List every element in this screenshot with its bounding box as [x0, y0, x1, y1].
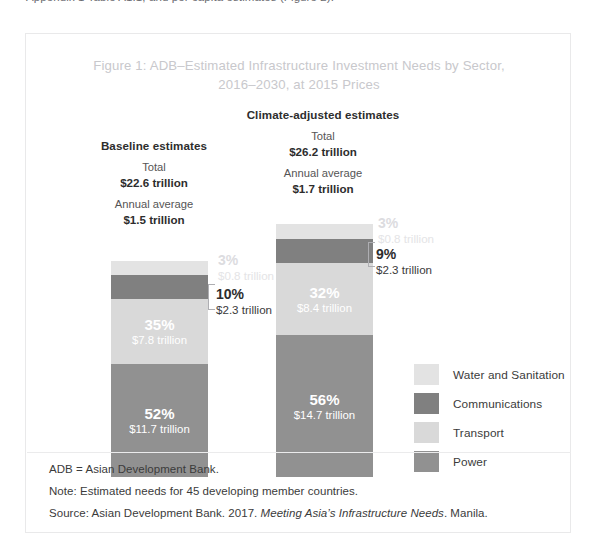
callout-baseline-communications: 10% $2.3 trillion — [216, 286, 272, 317]
segment-pct-climate-transport: 32% — [309, 284, 339, 301]
callout-amt-climate-communications: $2.3 trillion — [376, 262, 432, 277]
footnote-divider — [27, 452, 571, 453]
legend-item-transport: Transport — [414, 418, 565, 447]
bracket-baseline-communications — [208, 284, 215, 310]
callout-amt-baseline-communications: $2.3 trillion — [216, 302, 272, 317]
segment-amt-climate-power: $14.7 trillion — [294, 408, 355, 422]
annual-label-climate: Annual average — [238, 166, 408, 181]
column-heading-climate: Climate-adjusted estimates — [238, 108, 408, 121]
source-prefix: Source: Asian Development Bank. 2017. — [49, 507, 261, 519]
legend-swatch-transport — [414, 422, 439, 443]
total-label-climate: Total — [238, 129, 408, 144]
source-suffix: . Manila. — [444, 507, 488, 519]
figure-card: Figure 1: ADB–Estimated Infrastructure I… — [25, 33, 571, 533]
callout-pct-baseline-communications: 10% — [216, 286, 272, 302]
legend-label-transport: Transport — [453, 426, 504, 440]
callout-climate-communications: 9% $2.3 trillion — [376, 246, 432, 277]
chart-legend: Water and Sanitation Communications Tran… — [414, 360, 565, 476]
figure-title-line1: Figure 1: ADB–Estimated Infrastructure I… — [93, 58, 505, 73]
callout-amt-climate-water: $0.8 trillion — [378, 231, 434, 246]
callout-pct-climate-communications: 9% — [376, 246, 432, 262]
callout-baseline-water: 3% $0.8 trillion — [218, 252, 274, 283]
totals-climate: Total $26.2 trillion Annual average $1.7… — [238, 129, 408, 196]
figure-title: Figure 1: ADB–Estimated Infrastructure I… — [26, 56, 572, 94]
total-label-baseline: Total — [69, 160, 239, 175]
bar-segment-climate-transport: 32% $8.4 trillion — [276, 263, 373, 335]
total-value-baseline: $22.6 trillion — [69, 175, 239, 190]
bracket-climate-communications — [368, 242, 375, 267]
legend-item-water-and-sanitation: Water and Sanitation — [414, 360, 565, 389]
legend-label-communications: Communications — [453, 397, 542, 411]
segment-pct-baseline-power: 52% — [144, 405, 174, 422]
figure-title-line2: 2016–2030, at 2015 Prices — [26, 75, 572, 94]
annual-value-baseline: $1.5 trillion — [69, 212, 239, 227]
source-title: Meeting Asia’s Infrastructure Needs — [261, 507, 444, 519]
segment-amt-baseline-power: $11.7 trillion — [129, 422, 190, 436]
segment-amt-climate-transport: $8.4 trillion — [297, 301, 352, 315]
bar-segment-climate-power: 56% $14.7 trillion — [276, 335, 373, 477]
bar-segment-baseline-power: 52% $11.7 trillion — [111, 364, 208, 477]
stacked-bar-climate: 32% $8.4 trillion 56% $14.7 trillion — [276, 224, 373, 477]
note-source: Source: Asian Development Bank. 2017. Me… — [49, 506, 549, 521]
cutoff-line: Appendix 1 Table A1.1, and per capita es… — [26, 0, 334, 3]
annual-label-baseline: Annual average — [69, 197, 239, 212]
bar-segment-climate-communications — [276, 239, 373, 263]
segment-amt-baseline-transport: $7.8 trillion — [132, 333, 187, 347]
bar-segment-baseline-water — [111, 261, 208, 275]
stacked-bar-baseline: 35% $7.8 trillion 52% $11.7 trillion — [111, 261, 208, 477]
bar-segment-baseline-transport: 35% $7.8 trillion — [111, 299, 208, 364]
annual-value-climate: $1.7 trillion — [238, 181, 408, 196]
legend-label-water-and-sanitation: Water and Sanitation — [453, 368, 565, 382]
total-value-climate: $26.2 trillion — [238, 144, 408, 159]
note-estimate: Note: Estimated needs for 45 developing … — [49, 484, 549, 499]
legend-item-communications: Communications — [414, 389, 565, 418]
bar-segment-baseline-communications — [111, 275, 208, 299]
legend-swatch-communications — [414, 393, 439, 414]
bar-segment-climate-water — [276, 224, 373, 239]
note-abbreviation: ADB = Asian Development Bank. — [49, 462, 549, 477]
segment-pct-climate-power: 56% — [309, 391, 339, 408]
callout-pct-climate-water: 3% — [378, 215, 434, 231]
callout-amt-baseline-water: $0.8 trillion — [218, 268, 274, 283]
column-heading-baseline: Baseline estimates — [69, 139, 239, 152]
figure-notes: ADB = Asian Development Bank. Note: Esti… — [49, 462, 549, 528]
totals-baseline: Total $22.6 trillion Annual average $1.5… — [69, 160, 239, 227]
legend-swatch-water-and-sanitation — [414, 364, 439, 385]
page-cutoff-text: Appendix 1 Table A1.1, and per capita es… — [0, 0, 598, 14]
segment-pct-baseline-transport: 35% — [144, 316, 174, 333]
callout-climate-water: 3% $0.8 trillion — [378, 215, 434, 246]
callout-pct-baseline-water: 3% — [218, 252, 274, 268]
